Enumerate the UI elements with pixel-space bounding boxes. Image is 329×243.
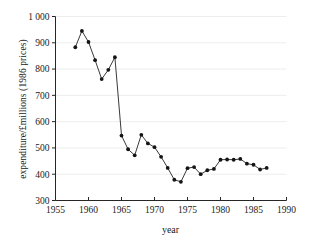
grid-lines xyxy=(56,17,287,175)
series-markers-expenditure xyxy=(73,29,268,184)
svg-text:1960: 1960 xyxy=(79,205,98,215)
svg-text:1965: 1965 xyxy=(112,205,131,215)
svg-text:800: 800 xyxy=(35,64,50,74)
svg-text:1955: 1955 xyxy=(46,205,65,215)
y-axis-tick-labels: 3004005006007008009001 000 xyxy=(28,12,50,206)
svg-text:1 000: 1 000 xyxy=(28,12,50,22)
svg-text:900: 900 xyxy=(35,38,50,48)
y-axis-ticks xyxy=(52,17,56,201)
x-axis-tick-labels: 19551960196519701975198019851990 xyxy=(46,205,296,215)
svg-text:500: 500 xyxy=(35,143,50,153)
svg-text:1975: 1975 xyxy=(178,205,197,215)
chart-plot-area: 3004005006007008009001 000 1955196019651… xyxy=(0,0,329,243)
chart-figure: expenditure/£millions (1986 prices) year… xyxy=(0,0,329,243)
series-line-expenditure xyxy=(75,31,266,182)
svg-text:1990: 1990 xyxy=(277,205,296,215)
svg-text:400: 400 xyxy=(35,170,50,180)
svg-text:1985: 1985 xyxy=(244,205,263,215)
x-axis-ticks xyxy=(56,197,287,201)
svg-text:600: 600 xyxy=(35,117,50,127)
svg-text:700: 700 xyxy=(35,91,50,101)
svg-text:1980: 1980 xyxy=(211,205,230,215)
svg-text:1970: 1970 xyxy=(145,205,164,215)
